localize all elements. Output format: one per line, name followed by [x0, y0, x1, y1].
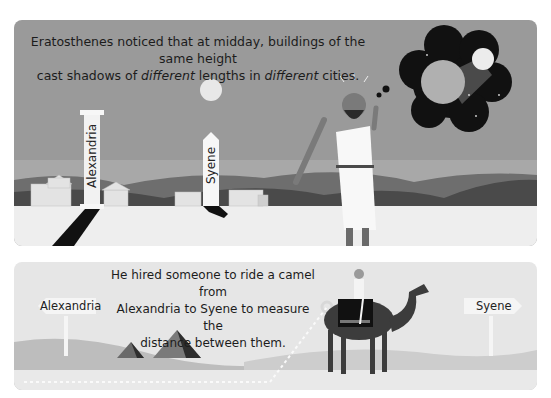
- caption-line-1: Eratosthenes noticed that at midday, bui…: [28, 33, 368, 67]
- illustration-panel-camel: He hired someone to ride a camel from Al…: [14, 262, 537, 390]
- caption-line-1: He hired someone to ride a camel from: [108, 267, 318, 301]
- sign-syene-label: Syene: [476, 299, 512, 313]
- alexandria-column-label: Alexandria: [85, 124, 99, 188]
- syene-obelisk-label: Syene: [204, 147, 218, 184]
- caption-text: cities.: [318, 68, 359, 83]
- caption-line-2: cast shadows of different lengths in dif…: [28, 67, 368, 84]
- caption-line-2: Alexandria to Syene to measure the: [108, 301, 318, 335]
- illustration-panel-shadows: Eratosthenes noticed that at midday, bui…: [14, 20, 537, 246]
- thought-bubble-icon: [377, 25, 513, 132]
- caption-emphasis: different: [265, 68, 319, 83]
- caption-line-3: distance between them.: [108, 335, 318, 352]
- earth-icon: [421, 60, 465, 104]
- sign-alexandria-label: Alexandria: [40, 299, 101, 313]
- top-caption: Eratosthenes noticed that at midday, bui…: [28, 33, 368, 84]
- caption-text: cast shadows of: [37, 68, 141, 83]
- caption-text: lengths in: [195, 68, 265, 83]
- caption-emphasis: different: [141, 68, 195, 83]
- bottom-caption: He hired someone to ride a camel from Al…: [108, 267, 318, 352]
- sun-small-icon: [472, 48, 494, 70]
